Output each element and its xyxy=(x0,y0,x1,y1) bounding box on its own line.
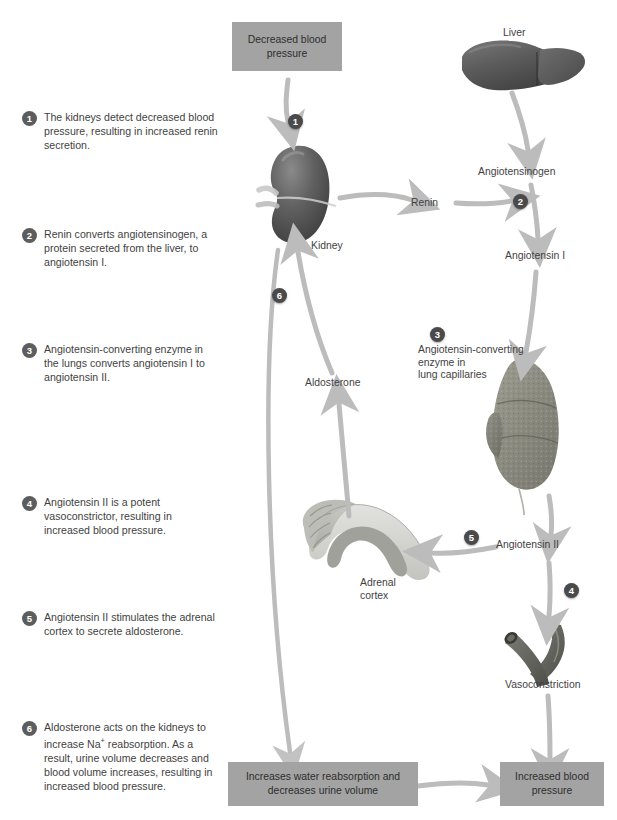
label-angiotensin-ii: Angiotensin II xyxy=(496,538,559,551)
step-item-4: 4 Angiotensin II is a potent vasoconstri… xyxy=(22,495,218,538)
step-item-5: 5 Angiotensin II stimulates the adrenal … xyxy=(22,610,218,638)
marker-4: 4 xyxy=(564,583,579,598)
step-item-1: 1 The kidneys detect decreased blood pre… xyxy=(22,110,218,153)
marker-6: 6 xyxy=(272,288,287,303)
step-text-6: Aldosterone acts on the kidneys to incre… xyxy=(44,720,218,794)
arrow-aldosterone-kidney-return xyxy=(268,250,290,752)
lung-illustration xyxy=(486,359,559,515)
box-decreased-blood-pressure: Decreased blood pressure xyxy=(232,22,342,71)
step-item-6: 6 Aldosterone acts on the kidneys to inc… xyxy=(22,720,218,794)
step-text-5: Angiotensin II stimulates the adrenal co… xyxy=(44,610,218,638)
marker-2: 2 xyxy=(513,194,528,209)
step-item-3: 3 Angiotensin-converting enzyme in the l… xyxy=(22,342,218,385)
box-water-reabsorption: Increases water reabsorption and decreas… xyxy=(228,762,418,806)
diagram-canvas: 1 The kidneys detect decreased blood pre… xyxy=(0,0,617,820)
label-angiotensinogen: Angiotensinogen xyxy=(478,165,555,178)
arrow-vasoconstriction-to-increased-bp xyxy=(548,696,550,758)
step-badge-4: 4 xyxy=(22,496,37,511)
marker-5: 5 xyxy=(464,530,479,545)
label-aldosterone: Aldosterone xyxy=(305,376,360,389)
step-badge-2: 2 xyxy=(22,228,37,243)
arrow-angiotensin-i-to-lung xyxy=(526,272,536,352)
arrow-bp-to-kidney xyxy=(286,80,288,122)
step-badge-3: 3 xyxy=(22,343,37,358)
box-increased-blood-pressure: Increased blood pressure xyxy=(500,762,604,806)
step-item-2: 2 Renin converts angiotensinogen, a prot… xyxy=(22,227,218,270)
liver-illustration xyxy=(462,41,585,91)
marker-3: 3 xyxy=(430,327,445,342)
kidney-illustration xyxy=(258,146,336,243)
label-vasoconstriction: Vasoconstriction xyxy=(505,678,580,691)
arrow-renin-to-conversion xyxy=(456,201,511,204)
step-text-1: The kidneys detect decreased blood press… xyxy=(44,110,218,153)
label-liver: Liver xyxy=(503,26,526,39)
label-kidney: Kidney xyxy=(311,239,343,252)
arrow-angiotensin-ii-to-vasoconstriction xyxy=(549,563,550,616)
step-badge-5: 5 xyxy=(22,611,37,626)
label-angiotensin-i: Angiotensin I xyxy=(505,249,565,262)
arrow-lung-to-angiotensin-ii xyxy=(549,496,552,534)
arrow-adrenal-to-aldosterone xyxy=(339,404,349,516)
arrow-angiotensin-ii-to-adrenal xyxy=(432,547,496,553)
arrow-kidney-to-renin xyxy=(340,195,412,200)
arrow-aldosterone-to-kidney xyxy=(298,252,332,373)
step-text-3: Angiotensin-converting enzyme in the lun… xyxy=(44,342,218,385)
label-ace-lung-capillaries: Angiotensin-converting enzyme in lung ca… xyxy=(418,344,524,382)
step-text-4: Angiotensin II is a potent vasoconstrict… xyxy=(44,495,218,538)
label-renin: Renin xyxy=(411,196,438,209)
arrow-angiotensinogen-to-angiotensin-i xyxy=(531,185,538,238)
step-badge-6: 6 xyxy=(22,721,37,736)
step-text-2: Renin converts angiotensinogen, a protei… xyxy=(44,227,218,270)
marker-1: 1 xyxy=(288,114,303,129)
step-badge-1: 1 xyxy=(22,111,37,126)
label-adrenal-cortex: Adrenal cortex xyxy=(360,577,396,602)
adrenal-gland-illustration xyxy=(303,500,430,580)
arrow-liver-to-angiotensinogen xyxy=(512,93,528,150)
arrow-water-to-increased-bp xyxy=(418,783,488,786)
